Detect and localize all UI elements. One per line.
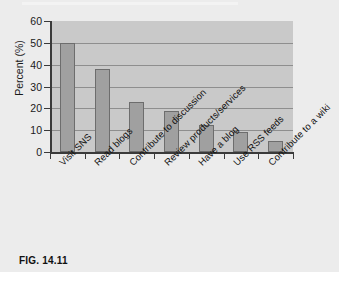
- y-axis-tick: [44, 65, 51, 66]
- y-axis-tick-label: 10: [2, 125, 42, 136]
- x-axis-tick: [85, 154, 86, 159]
- bar: [60, 43, 75, 152]
- bar: [95, 69, 110, 152]
- figure-card: 6050403020100 Percent (%) Visit SNSRead …: [0, 0, 339, 272]
- y-axis-tick: [44, 130, 51, 131]
- y-axis-tick: [44, 152, 51, 153]
- y-axis-tick: [44, 43, 51, 44]
- y-axis-tick: [44, 108, 51, 109]
- x-axis-tick: [189, 154, 190, 159]
- x-axis-tick: [258, 154, 259, 159]
- page-bottom-margin: [0, 272, 339, 290]
- x-axis-tick: [119, 154, 120, 159]
- figure-caption: FIG. 14.11: [19, 255, 68, 266]
- y-axis-tick-label: 0: [2, 147, 42, 158]
- y-axis-tick: [44, 87, 51, 88]
- x-axis-tick: [224, 154, 225, 159]
- y-axis-tick: [44, 21, 51, 22]
- y-axis-title: Percent (%): [13, 18, 25, 118]
- bar-chart: 6050403020100 Percent (%) Visit SNSRead …: [0, 0, 339, 272]
- x-axis-tick: [50, 154, 51, 159]
- x-axis-tick: [293, 154, 294, 159]
- x-axis-tick: [154, 154, 155, 159]
